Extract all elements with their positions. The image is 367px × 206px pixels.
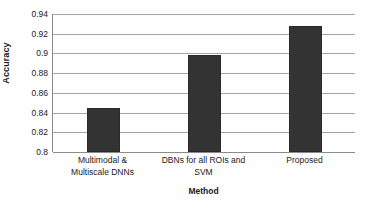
x-axis-tick-line: DBNs for all ROIs and: [153, 155, 254, 167]
y-axis-tick: 0.9: [18, 48, 48, 58]
x-axis-tick: Proposed: [254, 155, 355, 167]
gridline: [53, 152, 355, 153]
plot-area: [52, 14, 355, 152]
y-axis-tick: 0.84: [18, 108, 48, 118]
y-axis-tick: 0.86: [18, 88, 48, 98]
y-axis-tick: 0.94: [18, 9, 48, 19]
x-axis-tick-labels: Multimodal &Multiscale DNNsDBNs for all …: [52, 155, 355, 187]
x-axis-tick-line: Multiscale DNNs: [52, 167, 153, 179]
x-axis-tick-line: Proposed: [254, 155, 355, 167]
y-axis-tick: 0.82: [18, 127, 48, 137]
y-axis-tick: 0.88: [18, 68, 48, 78]
y-axis-tick: 0.92: [18, 29, 48, 39]
y-axis-tick-labels: 0.80.820.840.860.880.90.920.94: [18, 14, 48, 152]
x-axis-tick: Multimodal &Multiscale DNNs: [52, 155, 153, 178]
x-axis-tick: DBNs for all ROIs andSVM: [153, 155, 254, 178]
bar-chart: Accuracy 0.80.820.840.860.880.90.920.94 …: [0, 0, 367, 206]
bar: [87, 108, 120, 152]
x-axis-tick-line: Multimodal &: [52, 155, 153, 167]
x-axis-title: Method: [52, 186, 355, 196]
y-axis-title: Accuracy: [1, 33, 15, 93]
y-axis-tick: 0.8: [18, 147, 48, 157]
bar: [188, 55, 221, 152]
x-axis-tick-line: SVM: [153, 167, 254, 179]
bar-series: [53, 14, 355, 152]
bar: [289, 26, 322, 152]
